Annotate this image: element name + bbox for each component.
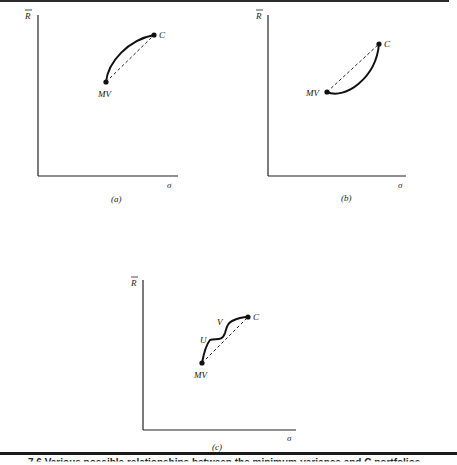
y-axis-label: R bbox=[24, 11, 31, 21]
y-axis-label: R bbox=[255, 11, 262, 21]
point-c bbox=[245, 314, 250, 319]
panel-b: R σ (b) MV C bbox=[255, 10, 406, 203]
panel-a: R σ (a) MV C bbox=[24, 10, 178, 204]
figure-canvas: R σ (a) MV C R σ (b) MV C R σ (c) MV bbox=[0, 0, 457, 465]
label-c: C bbox=[159, 30, 166, 40]
bottom-rule bbox=[0, 452, 457, 455]
label-v: V bbox=[217, 317, 224, 327]
frontier-curve bbox=[327, 44, 379, 94]
point-c bbox=[151, 32, 156, 37]
dashed-line bbox=[106, 35, 154, 82]
label-mv: MV bbox=[193, 370, 208, 380]
point-mv bbox=[324, 89, 329, 94]
x-axis-label: σ bbox=[398, 180, 403, 190]
y-axis-label: R bbox=[130, 278, 137, 288]
panel-label: (b) bbox=[341, 193, 352, 203]
point-mv bbox=[199, 360, 204, 365]
x-axis-label: σ bbox=[167, 180, 172, 190]
point-c bbox=[376, 41, 381, 46]
label-c: C bbox=[253, 312, 260, 322]
label-mv: MV bbox=[305, 88, 320, 98]
label-mv: MV bbox=[97, 89, 112, 99]
label-c: C bbox=[384, 39, 391, 49]
x-axis-label: σ bbox=[287, 433, 292, 443]
point-mv bbox=[103, 79, 108, 84]
panel-c: R σ (c) MV U V C bbox=[130, 277, 296, 452]
panel-label: (a) bbox=[111, 194, 122, 204]
label-u: U bbox=[200, 335, 207, 345]
panel-label: (c) bbox=[212, 442, 222, 452]
